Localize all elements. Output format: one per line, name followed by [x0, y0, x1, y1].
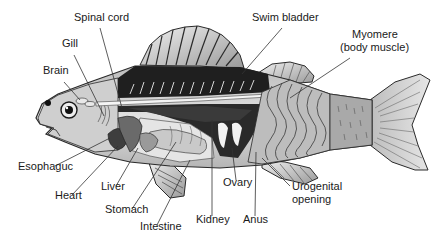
label-brain: Brain [43, 64, 69, 76]
label-swim-bladder: Swim bladder [252, 11, 319, 23]
myomere [248, 80, 372, 164]
label-esophagus: Esophaguc [18, 160, 73, 172]
label-myomere-sub: (body muscle) [340, 41, 409, 53]
label-urogenital-sub: opening [292, 193, 331, 205]
label-urogenital: Urogenital [292, 180, 342, 192]
dorsal-fin [140, 26, 244, 68]
label-liver: Liver [101, 180, 125, 192]
label-heart: Heart [55, 189, 82, 201]
head [38, 78, 118, 152]
fish-anatomy-diagram: Spinal cord Gill Brain Swim bladder Myom… [0, 0, 442, 247]
label-kidney: Kidney [196, 213, 230, 225]
label-spinal-cord: Spinal cord [74, 11, 129, 23]
label-gill: Gill [62, 37, 78, 49]
label-intestine: Intestine [140, 220, 182, 232]
tail-fin [370, 74, 430, 170]
label-stomach: Stomach [105, 203, 148, 215]
label-anus: Anus [243, 213, 268, 225]
label-myomere: Myomere [352, 28, 398, 40]
label-ovary: Ovary [223, 176, 252, 188]
